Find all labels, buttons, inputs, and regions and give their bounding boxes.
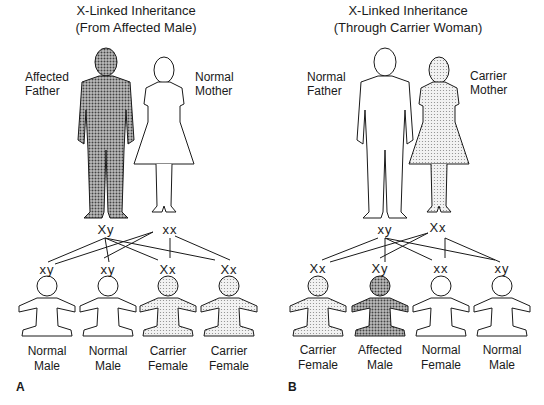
- panel-a-child-1-genotype: xy: [27, 262, 67, 277]
- panel-a-child-4-figure: [201, 276, 257, 336]
- label-line1: Carrier: [133, 344, 203, 359]
- panel-a-child-3-figure: [140, 276, 196, 336]
- panel-b-title-line2: (Through Carrier Woman): [272, 19, 544, 36]
- panel-b-cross-lines: [322, 233, 500, 262]
- panel-a-mother-label: Normal Mother: [195, 70, 234, 98]
- label-line1: Affected: [345, 343, 415, 358]
- panel-a-cross-lines: [48, 232, 230, 264]
- panel-a-father-label: Affected Father: [25, 70, 69, 98]
- label-line2: Female: [406, 358, 476, 373]
- label-line2: Mother: [470, 83, 507, 97]
- label-line2: Female: [133, 359, 203, 374]
- label-line1: Carrier: [194, 344, 264, 359]
- panel-a-child-3-genotype: Xx: [148, 262, 188, 277]
- panel-b-child-2-label: Affected Male: [345, 343, 415, 373]
- panel-b-father-genotype: xy: [365, 222, 405, 237]
- label-line1: Carrier: [283, 343, 353, 358]
- panel-a-child-2-genotype: xy: [88, 262, 128, 277]
- label-line2: Female: [194, 359, 264, 374]
- panel-a-letter: A: [16, 380, 25, 394]
- label-line1: Normal: [406, 343, 476, 358]
- panel-a-child-2-figure: [80, 276, 136, 336]
- panel-b-child-4-label: Normal Male: [467, 343, 537, 373]
- label-line2: Mother: [195, 84, 234, 98]
- panel-a-father-genotype: Xy: [86, 222, 126, 237]
- label-line1: Carrier: [470, 69, 507, 83]
- panel-a-title-line2: (From Affected Male): [0, 19, 272, 36]
- label-line1: Normal: [12, 344, 82, 359]
- label-line2: Male: [12, 359, 82, 374]
- panel-a-child-1-label: Normal Male: [12, 344, 82, 374]
- panel-b-title: X-Linked Inheritance (Through Carrier Wo…: [272, 2, 544, 36]
- panel-b-mother-genotype: Xx: [418, 220, 458, 235]
- label-line2: Female: [283, 358, 353, 373]
- label-line2: Father: [25, 84, 69, 98]
- panel-b-child-2-genotype: Xy: [360, 261, 400, 276]
- panel-a-mother-genotype: xx: [150, 222, 190, 237]
- panel-b-mother-figure: [409, 57, 469, 212]
- panel-b-child-4-figure: [474, 276, 530, 336]
- panel-a-child-4-genotype: Xx: [209, 262, 249, 277]
- label-line1: Affected: [25, 70, 69, 84]
- panel-a-child-3-label: Carrier Female: [133, 344, 203, 374]
- panel-a-child-1-figure: [19, 276, 75, 336]
- label-line2: Male: [467, 358, 537, 373]
- label-line1: Normal: [467, 343, 537, 358]
- panel-a-title-line1: X-Linked Inheritance: [0, 2, 272, 19]
- panel-b-child-1-figure: [290, 276, 346, 336]
- panel-a-child-4-label: Carrier Female: [194, 344, 264, 374]
- panel-b-mother-label: Carrier Mother: [470, 69, 507, 97]
- panel-b-child-2-figure: [352, 276, 408, 336]
- panel-b-child-1-genotype: Xx: [298, 261, 338, 276]
- panel-b-child-1-label: Carrier Female: [283, 343, 353, 373]
- label-line1: Normal: [195, 70, 234, 84]
- panel-b-child-3-figure: [413, 276, 469, 336]
- panel-a-father-figure: [78, 48, 134, 218]
- panel-b-father-label: Normal Father: [307, 70, 346, 98]
- panel-b-father-figure: [357, 48, 413, 218]
- panel-b-letter: B: [288, 380, 297, 394]
- panel-b-child-3-label: Normal Female: [406, 343, 476, 373]
- panel-b-title-line1: X-Linked Inheritance: [272, 2, 544, 19]
- panel-b-child-3-genotype: xx: [421, 261, 461, 276]
- panel-b-child-4-genotype: xy: [482, 261, 522, 276]
- label-line2: Male: [345, 358, 415, 373]
- label-line1: Normal: [307, 70, 346, 84]
- label-line2: Father: [307, 84, 346, 98]
- panel-a-title: X-Linked Inheritance (From Affected Male…: [0, 2, 272, 36]
- panel-a-mother-figure: [134, 57, 194, 212]
